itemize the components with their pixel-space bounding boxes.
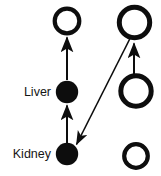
node-layer: [55, 7, 152, 168]
open-circle-middle-right: [121, 76, 151, 106]
open-circle-top-left: [55, 9, 80, 34]
filled-circle-liver: [56, 81, 78, 103]
diagram-canvas: Liver Kidney: [0, 0, 161, 176]
open-circle-bottom-right: [124, 144, 148, 168]
liver-label: Liver: [24, 85, 51, 99]
filled-circle-kidney: [56, 143, 78, 165]
open-circle-top-right: [119, 7, 149, 37]
node-link-diagram: Liver Kidney: [0, 0, 161, 176]
kidney-label: Kidney: [13, 147, 52, 161]
label-layer: Liver Kidney: [13, 85, 52, 161]
